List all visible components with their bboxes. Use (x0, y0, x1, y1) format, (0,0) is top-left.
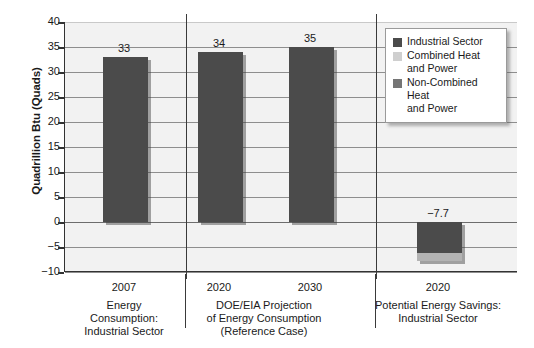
x-group-caption: DOE/EIA Projection of Energy Consumption… (169, 299, 359, 338)
y-tick-mark (58, 272, 64, 274)
x-tick-year: 2020 (174, 281, 264, 293)
legend-swatch-icon (393, 79, 402, 88)
y-tick-label: 0 (20, 216, 60, 227)
y-tick-label: 20 (20, 116, 60, 127)
panel-separator-bottom (375, 274, 376, 328)
bar-value-label: 33 (89, 43, 159, 54)
x-tick-year: 2007 (79, 281, 169, 293)
y-axis-title: Quadrillion Btu (Quads) (30, 21, 42, 241)
x-tick-year: 2020 (393, 281, 483, 293)
bar-2020-1 (198, 52, 243, 222)
legend-item: Combined Heat and Power (393, 49, 500, 75)
bar-value-label: 34 (184, 38, 254, 49)
y-tick-label: −10 (20, 266, 60, 277)
bar-2020-3 (417, 222, 462, 261)
y-tick-label: 25 (20, 91, 60, 102)
bar-chart: Quadrillion Btu (Quads) 4035302520151050… (0, 0, 534, 348)
bar-value-label: 35 (275, 33, 345, 44)
panel-separator (376, 14, 377, 279)
legend-swatch-icon (393, 38, 402, 47)
chart-legend: Industrial SectorCombined Heat and Power… (385, 28, 507, 123)
y-tick-label: 5 (20, 191, 60, 202)
y-tick-label: 10 (20, 166, 60, 177)
legend-swatch-icon (393, 52, 402, 61)
panel-separator (186, 14, 187, 279)
bar-segment (417, 253, 462, 261)
bar-2007-0 (103, 57, 148, 222)
bar-segment (198, 52, 243, 222)
legend-item: Industrial Sector (393, 35, 500, 48)
legend-item: Non-Combined Heat and Power (393, 76, 500, 115)
legend-label: Industrial Sector (407, 35, 483, 48)
y-tick-label: 15 (20, 141, 60, 152)
panel-separator-bottom (185, 274, 186, 328)
y-tick-label: 35 (20, 41, 60, 52)
legend-label: Non-Combined Heat and Power (407, 76, 500, 115)
y-tick-label: 40 (20, 16, 60, 27)
bar-value-label: −7.7 (403, 208, 473, 219)
y-tick-label: 30 (20, 66, 60, 77)
y-tick-label: −5 (20, 241, 60, 252)
bar-2030-2 (289, 47, 334, 222)
gridline (65, 272, 517, 273)
bar-segment (103, 57, 148, 222)
legend-label: Combined Heat and Power (407, 49, 480, 75)
bar-segment (417, 222, 462, 253)
x-tick-year: 2030 (265, 281, 355, 293)
bar-segment (289, 47, 334, 222)
gridline (65, 22, 517, 23)
x-group-caption: Potential Energy Savings: Industrial Sec… (343, 299, 533, 325)
